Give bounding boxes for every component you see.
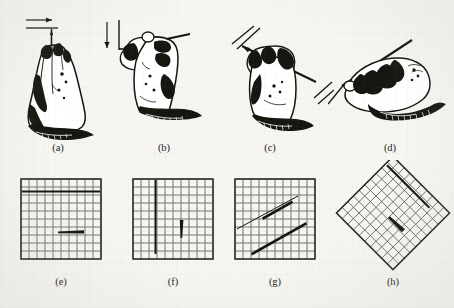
hand-posture-c-drawing (218, 4, 334, 144)
caption-c: (c) (240, 142, 300, 153)
grid-lines-g (235, 179, 315, 259)
grid-lines-f (133, 179, 213, 259)
hand-a (28, 43, 94, 140)
hand-b (120, 32, 202, 123)
panel-e (18, 176, 104, 262)
hand-d (344, 58, 446, 121)
panel-c (218, 4, 334, 144)
hand-posture-b-drawing (98, 4, 212, 144)
caption-a: (a) (28, 142, 88, 153)
figure-container: (a) (0, 0, 454, 308)
caption-e: (e) (31, 276, 91, 287)
grid-panel-g-drawing (232, 176, 318, 262)
hand-posture-d-drawing (328, 4, 454, 144)
guide-arrow-right-a (26, 17, 58, 28)
caption-d: (d) (360, 142, 420, 153)
caption-g: (g) (245, 276, 305, 287)
mark-short-tapered-stroke-h (388, 215, 405, 232)
grid-panel-f-drawing (130, 176, 216, 262)
caption-f: (f) (143, 276, 203, 287)
mark-upper-oblique-stroke-g (237, 196, 298, 229)
panel-d (328, 4, 454, 144)
panel-b (98, 4, 212, 144)
caption-h: (h) (363, 276, 423, 287)
panel-h (334, 160, 452, 272)
panel-a (6, 4, 110, 144)
grid-border-h (336, 160, 449, 270)
grid-panel-e-drawing (18, 176, 104, 262)
hand-c (247, 46, 314, 131)
rotated-grid-h (336, 160, 449, 270)
panel-f (130, 176, 216, 262)
hand-posture-a-drawing (6, 4, 110, 144)
panel-g (232, 176, 318, 262)
caption-b: (b) (134, 142, 194, 153)
grid-panel-h-drawing (334, 160, 452, 272)
mark-short-horizontal-stroke-e (58, 230, 84, 233)
